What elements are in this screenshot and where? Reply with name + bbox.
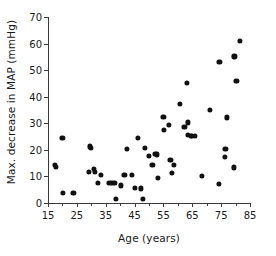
data-point	[60, 190, 65, 195]
data-point	[184, 80, 189, 85]
data-point	[169, 170, 174, 175]
data-point	[178, 101, 183, 106]
x-tick-45	[135, 203, 136, 207]
data-point	[129, 172, 134, 177]
x-tick-label-75: 75	[215, 210, 228, 221]
data-point	[234, 78, 239, 83]
y-tick-60	[44, 44, 48, 45]
y-tick-50	[44, 70, 48, 71]
data-point	[217, 59, 222, 64]
data-point	[92, 169, 97, 174]
data-point	[199, 173, 204, 178]
y-axis-line	[48, 17, 49, 204]
x-tick-label-25: 25	[70, 210, 83, 221]
x-tick-label-15: 15	[42, 210, 55, 221]
y-tick-label-60: 60	[29, 38, 42, 49]
x-tick-minor-80	[236, 203, 237, 206]
data-point	[154, 152, 159, 157]
data-point	[95, 180, 100, 185]
data-point	[222, 154, 227, 159]
data-point	[114, 196, 119, 201]
data-point	[155, 175, 160, 180]
data-point	[53, 165, 58, 170]
y-tick-label-20: 20	[29, 144, 42, 155]
y-tick-20	[44, 150, 48, 151]
data-point	[112, 180, 117, 185]
data-point	[139, 186, 144, 191]
plot-area: 010203040506070 1525354555657585	[48, 17, 250, 203]
x-tick-label-85: 85	[244, 210, 257, 221]
x-tick-minor-30	[91, 203, 92, 206]
data-point	[150, 162, 155, 167]
x-tick-65	[192, 203, 193, 207]
data-point	[60, 135, 65, 140]
data-point	[167, 122, 172, 127]
x-tick-minor-20	[62, 203, 63, 206]
data-point	[143, 146, 148, 151]
data-point	[118, 183, 123, 188]
data-point	[223, 146, 228, 151]
x-tick-label-55: 55	[157, 210, 170, 221]
data-point	[238, 38, 243, 43]
y-tick-label-30: 30	[29, 118, 42, 129]
data-point	[207, 107, 212, 112]
data-point	[124, 146, 129, 151]
y-tick-10	[44, 176, 48, 177]
data-point	[98, 172, 103, 177]
x-tick-label-65: 65	[186, 210, 199, 221]
y-tick-label-10: 10	[29, 171, 42, 182]
x-tick-minor-40	[120, 203, 121, 206]
x-tick-25	[77, 203, 78, 207]
data-point	[182, 124, 187, 129]
y-tick-30	[44, 123, 48, 124]
data-point	[185, 120, 190, 125]
x-tick-35	[106, 203, 107, 207]
data-point	[122, 172, 127, 177]
x-tick-55	[163, 203, 164, 207]
data-point	[224, 115, 229, 120]
x-tick-15	[48, 203, 49, 207]
data-point	[141, 196, 146, 201]
data-point	[71, 190, 76, 195]
data-point	[146, 154, 151, 159]
data-point	[232, 54, 237, 59]
x-tick-label-35: 35	[99, 210, 112, 221]
data-point	[161, 115, 166, 120]
y-tick-label-0: 0	[36, 198, 42, 209]
x-axis-label: Age (years)	[48, 232, 250, 244]
data-point	[162, 128, 167, 133]
x-tick-75	[221, 203, 222, 207]
x-tick-label-45: 45	[128, 210, 141, 221]
x-tick-minor-50	[149, 203, 150, 206]
x-tick-minor-70	[207, 203, 208, 206]
y-axis-label: Max. decrease in MAP (mmHg)	[2, 0, 20, 204]
y-tick-40	[44, 97, 48, 98]
scatter-plot-figure: Max. decrease in MAP (mmHg) Age (years) …	[0, 0, 276, 256]
y-tick-label-40: 40	[29, 91, 42, 102]
y-tick-label-70: 70	[29, 12, 42, 23]
data-point	[89, 145, 94, 150]
y-tick-label-50: 50	[29, 65, 42, 76]
data-point	[133, 186, 138, 191]
data-point	[192, 133, 197, 138]
data-point	[135, 135, 140, 140]
y-tick-70	[44, 17, 48, 18]
data-point	[231, 165, 236, 170]
data-point	[216, 181, 221, 186]
x-tick-minor-60	[178, 203, 179, 206]
x-tick-85	[250, 203, 251, 207]
data-point	[171, 162, 176, 167]
